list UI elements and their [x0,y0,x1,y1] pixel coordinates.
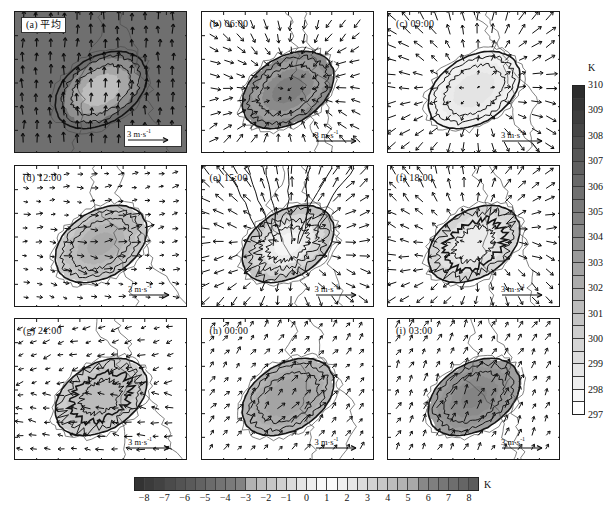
vector-scale-legend-b: 3 m·s-1 [313,127,369,147]
vertical-colorbar-tick: 309 [588,105,603,115]
vertical-colorbar-tick: 300 [588,334,603,344]
vertical-colorbar-tick: 299 [588,359,603,369]
vector-scale-arrow-b [316,138,360,144]
horizontal-colorbar-tick: −6 [179,492,190,503]
vertical-colorbar-segment [573,99,584,112]
vertical-colorbar-segment [573,289,584,302]
horizontal-colorbar-tick: 8 [466,492,471,503]
vertical-colorbar-segment [573,276,584,289]
horizontal-colorbar-segment [429,478,439,490]
vertical-temperature-colorbar [572,85,585,415]
horizontal-colorbar-segment [348,478,358,490]
vertical-colorbar-segment [573,111,584,124]
horizontal-colorbar-segment [459,478,469,490]
horizontal-colorbar-segment [378,478,388,490]
vertical-colorbar-tick: 305 [588,207,603,217]
vertical-colorbar-tick: 303 [588,258,603,268]
vertical-colorbar-ticks: 3103093083073063053043033023013002992982… [588,85,607,415]
vertical-colorbar-tick: 306 [588,182,603,192]
panel-e: (e) 15:003 m·s-1 [201,165,374,307]
vector-scale-legend-a: 3 m·s-1 [124,125,182,147]
vertical-colorbar-segment [573,149,584,162]
panel-f: (f) 18:003 m·s-1 [387,165,560,307]
panel-i: (i) 03:003 m·s-1 [387,318,560,460]
vector-scale-arrow-h [316,445,360,451]
panel-label-i: (i) 03:00 [394,324,435,337]
vector-scale-arrow-a [128,137,172,143]
horizontal-colorbar-segment [398,478,408,490]
vertical-colorbar-segment [573,225,584,238]
vector-scale-legend-f: 3 m·s-1 [499,281,555,301]
horizontal-colorbar-segment [317,478,327,490]
horizontal-colorbar-tick: 5 [406,492,411,503]
vertical-colorbar-segment [573,390,584,403]
vertical-colorbar-segment [573,263,584,276]
vector-scale-legend-i: 3 m·s-1 [499,434,555,454]
horizontal-colorbar-segment [216,478,226,490]
vertical-colorbar-segment [573,326,584,339]
horizontal-colorbar-segment [206,478,216,490]
vector-scale-legend-g: 3 m·s-1 [126,434,182,454]
panel-label-e: (e) 15:00 [208,171,250,184]
panel-label-g: (g) 21:00 [21,324,64,337]
vector-scale-arrow-e [316,292,360,298]
horizontal-colorbar-segment [186,478,196,490]
vertical-colorbar-segment [573,364,584,377]
horizontal-colorbar-tick: 0 [304,492,309,503]
vertical-colorbar-tick: 310 [588,80,603,90]
vertical-colorbar-segment [573,187,584,200]
horizontal-colorbar-segment [327,478,337,490]
vector-scale-arrow-c [502,138,546,144]
horizontal-colorbar-tick: 7 [446,492,451,503]
vertical-colorbar-segment [573,314,584,327]
vertical-colorbar-tick: 302 [588,283,603,293]
vector-scale-legend-h: 3 m·s-1 [313,434,369,454]
panel-label-f: (f) 18:00 [394,171,435,184]
horizontal-colorbar-segment [226,478,236,490]
horizontal-colorbar-segment [155,478,165,490]
vertical-colorbar-tick: 297 [588,410,603,420]
panel-g: (g) 21:003 m·s-1 [14,318,187,460]
vertical-colorbar-segment [573,301,584,314]
horizontal-colorbar-tick: 6 [426,492,431,503]
panel-a: (a) 平均3 m·s-1 [14,11,187,153]
horizontal-colorbar-tick: 1 [324,492,329,503]
vector-scale-arrow-d [129,292,173,298]
horizontal-colorbar-unit: K [484,479,491,490]
horizontal-colorbar-tick: −1 [281,492,292,503]
vertical-colorbar-segment [573,86,584,99]
vertical-colorbar-segment [573,200,584,213]
horizontal-colorbar-segment [135,478,145,490]
panel-d: (d) 12:003 m·s-1 [14,165,187,307]
vector-scale-arrow-i [502,445,546,451]
horizontal-colorbar-segment [236,478,246,490]
vector-scale-arrow-f [502,292,546,298]
horizontal-colorbar-segment [246,478,256,490]
vertical-colorbar-tick: 298 [588,385,603,395]
horizontal-colorbar-segment [388,478,398,490]
horizontal-colorbar-segment [297,478,307,490]
horizontal-colorbar-tick: −2 [261,492,272,503]
panel-h: (h) 00:003 m·s-1 [201,318,374,460]
horizontal-colorbar-tick: −3 [240,492,251,503]
panel-label-b: (b) 06:00 [208,17,251,30]
panel-grid: (a) 平均3 m·s-1(b) 06:003 m·s-1(c) 09:003 … [14,11,560,460]
horizontal-colorbar-segment [358,478,368,490]
vector-scale-legend-c: 3 m·s-1 [499,127,555,147]
panel-label-h: (h) 00:00 [208,324,251,337]
panel-label-d: (d) 12:00 [21,171,64,184]
panel-label-c: (c) 09:00 [394,17,436,30]
horizontal-colorbar-ticks: −8−7−6−5−4−3−2−1012345678 [134,492,479,504]
horizontal-colorbar-segment [449,478,459,490]
horizontal-colorbar-tick: 2 [345,492,350,503]
horizontal-colorbar-segment [165,478,175,490]
horizontal-colorbar-segment [307,478,317,490]
horizontal-colorbar-segment [145,478,155,490]
vertical-colorbar-segment [573,339,584,352]
vector-scale-legend-d: 3 m·s-1 [126,281,182,301]
vertical-colorbar-segment [573,124,584,137]
vertical-colorbar-segment [573,251,584,264]
vertical-colorbar-segment [573,175,584,188]
horizontal-colorbar-tick: 4 [385,492,390,503]
vertical-colorbar-segment [573,238,584,251]
